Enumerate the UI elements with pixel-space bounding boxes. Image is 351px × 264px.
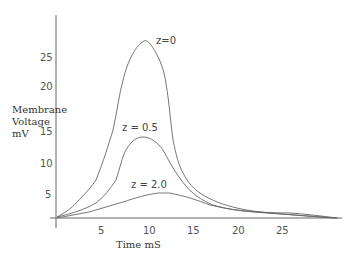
- x-tick-label: 5: [98, 225, 104, 236]
- membrane-voltage-chart: 25 20 15 10 5 5 10 15 20 25 Time mS Memb…: [0, 0, 351, 264]
- series-label-z05: z = 0.5: [122, 122, 158, 133]
- x-tick-label: 25: [276, 225, 289, 236]
- y-axis-label-line2: Voltage: [11, 116, 50, 127]
- curve-z05: [57, 137, 337, 218]
- x-tick-label: 20: [232, 225, 245, 236]
- y-tick-label: 15: [40, 126, 53, 137]
- y-tick-label: 5: [45, 189, 51, 200]
- y-axis-label-line1: Membrane: [12, 104, 67, 115]
- y-tick-label: 25: [40, 52, 53, 63]
- series-label-z0: z=0: [156, 35, 176, 46]
- x-tick-label: 10: [143, 225, 156, 236]
- x-axis-label: Time mS: [116, 239, 161, 250]
- y-tick-label: 10: [40, 158, 53, 169]
- curve-z0: [57, 41, 337, 218]
- x-tick-label: 15: [187, 225, 200, 236]
- series-label-z2: z = 2.0: [131, 179, 167, 190]
- y-tick-label: 20: [40, 81, 53, 92]
- y-axis-label-line3: mV: [12, 128, 29, 139]
- curve-z2: [57, 193, 337, 218]
